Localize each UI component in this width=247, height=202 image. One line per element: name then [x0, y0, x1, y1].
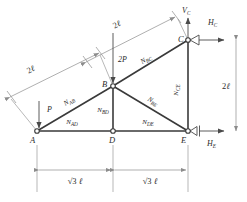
load-label-P: P	[46, 105, 52, 114]
node-A	[35, 129, 40, 134]
dimension-label-bc: 2ℓ	[111, 18, 123, 31]
dimension-bc-slant: 2ℓ	[83, 11, 188, 68]
member-label-DE: NDE	[141, 118, 154, 127]
reaction-HC: HC	[198, 18, 224, 40]
dimension-label-AD: √3 ℓ	[68, 176, 83, 186]
truss-diagram-canvas: 2ℓ 2ℓ NAB NBC NAD NDE	[0, 0, 247, 202]
member-label-AB: NAB	[61, 95, 77, 109]
reaction-label-HC: HC	[207, 18, 218, 28]
dimension-ab-extension-a	[11, 99, 37, 131]
dimension-ab-slant: 2ℓ	[7, 47, 113, 131]
reaction-HE: HE	[199, 131, 224, 149]
dimension-label-ab: 2ℓ	[25, 63, 37, 76]
node-label-B: B	[102, 79, 107, 89]
support-roller-E	[190, 126, 200, 137]
reaction-label-HE: HE	[206, 139, 217, 149]
support-C-triangle	[190, 35, 199, 45]
dimension-bottom-group: √3 ℓ √3 ℓ	[37, 145, 188, 192]
node-D	[111, 129, 116, 134]
load-label-2P: 2P	[118, 55, 127, 64]
load-2P: 2P	[113, 33, 127, 83]
node-B	[111, 84, 116, 89]
member-label-BD: NBD	[96, 106, 109, 115]
node-label-C: C	[178, 34, 184, 44]
truss-figure: 2ℓ 2ℓ NAB NBC NAD NDE	[0, 0, 247, 202]
support-E-triangle	[190, 127, 197, 136]
node-E	[186, 129, 191, 134]
dimension-label-ce: 2ℓ	[222, 81, 230, 91]
dimension-bc-tick-start	[83, 56, 92, 68]
node-label-E: E	[180, 135, 187, 145]
member-label-AD: NAD	[65, 118, 78, 127]
dimension-ce-vertical: 2ℓ	[222, 40, 236, 131]
reaction-label-VC: VC	[182, 6, 191, 16]
dimension-ab-tick-start	[7, 91, 16, 103]
dimension-label-DE: √3 ℓ	[143, 176, 158, 186]
node-C	[186, 38, 191, 43]
node-label-A: A	[29, 135, 36, 145]
node-label-D: D	[108, 135, 116, 145]
dimension-bc-tick-end	[172, 11, 181, 23]
member-label-CE: NCE	[172, 84, 181, 97]
member-label-BC: NBC	[138, 53, 154, 67]
support-pin-C	[190, 35, 199, 45]
